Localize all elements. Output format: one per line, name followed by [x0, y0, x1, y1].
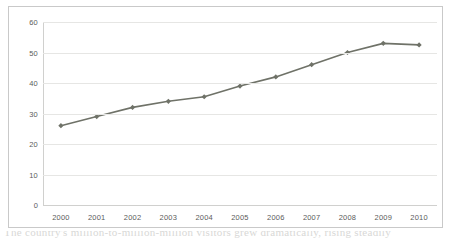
gridline-y-30: [43, 114, 437, 115]
y-axis-tick-labels: 0102030405060: [9, 7, 38, 229]
chart-frame: 0102030405060 20002001200220032004200520…: [8, 6, 443, 228]
x-tick-label: 2010: [410, 213, 428, 222]
gridline-y-0: [43, 205, 437, 206]
x-tick-label: 2001: [88, 213, 106, 222]
data-point-marker: [416, 42, 421, 47]
x-tick-label: 2008: [339, 213, 357, 222]
data-point-marker: [381, 41, 386, 46]
y-tick-label: 30: [29, 109, 38, 118]
x-tick-label: 2009: [375, 213, 393, 222]
x-tick-label: 2005: [231, 213, 249, 222]
x-tick-label: 2007: [303, 213, 321, 222]
gridline-y-60: [43, 22, 437, 23]
data-point-marker: [130, 105, 135, 110]
data-point-marker: [166, 99, 171, 104]
data-point-marker: [273, 74, 278, 79]
x-tick-label: 2006: [267, 213, 285, 222]
data-point-marker: [58, 123, 63, 128]
x-tick-label: 2000: [52, 213, 70, 222]
y-tick-label: 60: [29, 18, 38, 27]
x-tick-label: 2004: [195, 213, 213, 222]
y-tick-label: 20: [29, 140, 38, 149]
gridline-y-50: [43, 53, 437, 54]
gridline-y-20: [43, 144, 437, 145]
y-tick-label: 10: [29, 170, 38, 179]
x-axis-tick-labels: 2000200120022003200420052006200720082009…: [9, 213, 444, 227]
caption-text: The country's million-to-million-million…: [4, 231, 391, 238]
gridline-y-40: [43, 83, 437, 84]
y-tick-label: 40: [29, 79, 38, 88]
gridline-y-10: [43, 175, 437, 176]
caption-strip: The country's million-to-million-million…: [0, 231, 453, 244]
x-tick-label: 2002: [124, 213, 142, 222]
x-tick-label: 2003: [160, 213, 178, 222]
series-markers: [58, 41, 421, 129]
data-point-marker: [94, 114, 99, 119]
data-point-marker: [309, 62, 314, 67]
data-point-marker: [202, 94, 207, 99]
data-point-marker: [237, 83, 242, 88]
y-tick-label: 0: [34, 201, 38, 210]
y-tick-label: 50: [29, 48, 38, 57]
